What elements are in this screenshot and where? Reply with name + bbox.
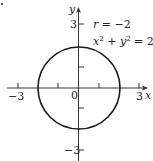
y-tick-label-pos3: 3 bbox=[70, 18, 77, 31]
origin-label: 0 bbox=[71, 89, 78, 102]
y-tick-label-neg3: −3 bbox=[64, 144, 80, 157]
x-tick-label-neg3: −3 bbox=[8, 90, 24, 103]
x-axis-label: x bbox=[145, 89, 152, 102]
equation-cartesian: x2 + y2 = 2 bbox=[93, 35, 153, 48]
corner-mark bbox=[1, 3, 3, 5]
y-ticks bbox=[79, 24, 85, 150]
x-tick-label-pos3: 3 bbox=[136, 90, 143, 103]
equation-polar: r = −2 bbox=[93, 18, 131, 31]
y-axis-label: y bbox=[68, 3, 76, 16]
polar-circle-plot: −3 3 0 3 −3 x y r = −2 x2 + y2 = 2 bbox=[0, 0, 153, 161]
